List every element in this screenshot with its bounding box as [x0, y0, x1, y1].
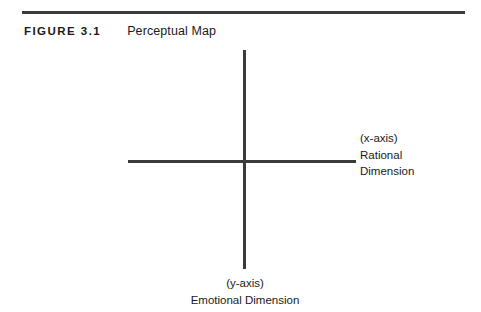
header-divider-rule [22, 11, 465, 14]
horizontal-axis-line [128, 160, 356, 163]
x-axis-dimension-word2-label: Dimension [360, 163, 414, 180]
x-axis-dimension-word1-label: Rational [360, 147, 414, 164]
figure-page: FIGURE 3.1Perceptual Map (x-axis) Ration… [0, 0, 481, 312]
y-axis-dimension-label: Emotional Dimension [145, 292, 345, 309]
figure-title-label: Perceptual Map [127, 24, 216, 38]
x-axis-name-label: (x-axis) [360, 130, 414, 147]
y-axis-label-group: (y-axis) Emotional Dimension [145, 275, 345, 308]
figure-number-label: FIGURE 3.1 [24, 25, 101, 37]
x-axis-label-group: (x-axis) Rational Dimension [360, 130, 414, 180]
y-axis-name-label: (y-axis) [145, 275, 345, 292]
figure-caption: FIGURE 3.1Perceptual Map [24, 21, 216, 39]
